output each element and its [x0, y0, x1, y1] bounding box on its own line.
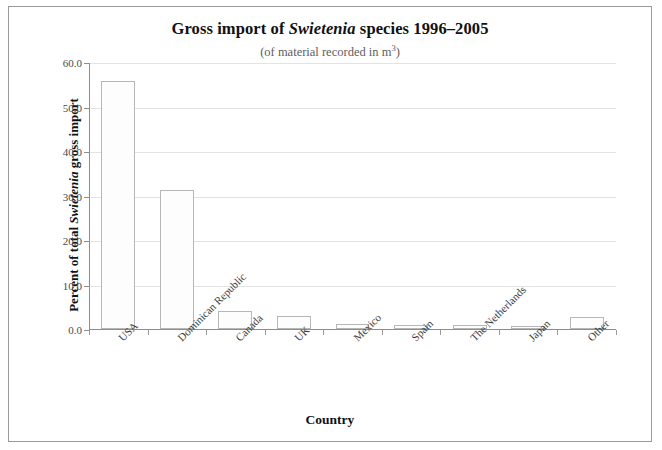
gridline: [89, 63, 616, 64]
gridline: [89, 152, 616, 153]
y-axis-tick-label: 40.0: [22, 146, 82, 158]
y-axis-tick-label: 50.0: [22, 102, 82, 114]
plot-area: 0.010.020.030.040.050.060.0: [89, 63, 616, 330]
chart-subtitle-post: ): [396, 45, 400, 59]
y-axis-tick-label: 10.0: [22, 280, 82, 292]
chart-title-pre: Gross import of: [171, 19, 288, 38]
y-axis-tick-label: 0.0: [22, 324, 82, 336]
chart-subtitle-pre: (of material recorded in m: [260, 45, 391, 59]
y-axis-tick-label: 30.0: [22, 191, 82, 203]
y-axis-tick-label: 60.0: [22, 57, 82, 69]
bar: [101, 81, 135, 329]
y-axis-title: Percent of total Swietenia gross import: [66, 80, 82, 330]
chart-subtitle: (of material recorded in m3): [9, 43, 651, 60]
bar: [160, 190, 194, 329]
x-axis-title: Country: [9, 412, 651, 428]
chart-title-italic: Swietenia: [289, 19, 356, 38]
chart-title-post: species 1996–2005: [356, 19, 489, 38]
x-axis-tick-mark: [616, 330, 617, 335]
chart-title: Gross import of Swietenia species 1996–2…: [9, 19, 651, 39]
gridline: [89, 108, 616, 109]
y-axis-tick-label: 20.0: [22, 235, 82, 247]
chart-figure: Gross import of Swietenia species 1996–2…: [8, 6, 652, 442]
y-axis-line: [89, 63, 90, 330]
